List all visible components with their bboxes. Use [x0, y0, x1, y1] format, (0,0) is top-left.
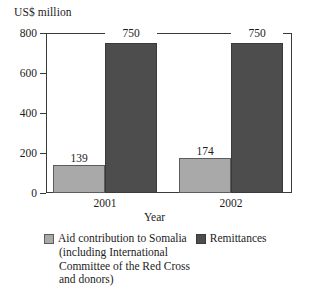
- bar-value-2002-aid: 174: [179, 145, 231, 157]
- bar-2002-aid: [179, 158, 231, 193]
- legend-label-aid: Aid contribution to Somalia: [58, 232, 187, 246]
- legend-label-aid-continued: (including International Committee of th…: [59, 246, 190, 287]
- bar-2001-remittances: [105, 43, 157, 193]
- bar-value-2002-remittances: 750: [231, 27, 283, 39]
- y-axis-caption: US$ million: [14, 6, 72, 18]
- y-tick-400: [40, 113, 46, 114]
- y-tick-label-600: 600: [0, 67, 37, 79]
- bar-2001-aid: [53, 165, 105, 193]
- legend-row: Aid contribution to Somalia Remittances: [44, 232, 306, 246]
- legend-swatch-remittances-icon: [196, 234, 206, 244]
- bar-value-2001-aid: 139: [53, 152, 105, 164]
- y-tick-label-400: 400: [0, 107, 37, 119]
- legend-aid-line3: Committee of the Red Cross: [59, 260, 190, 274]
- y-tick-200: [40, 153, 46, 154]
- x-tick-label-2001: 2001: [79, 197, 131, 209]
- y-tick-600: [40, 73, 46, 74]
- legend-label-remittances: Remittances: [210, 232, 267, 246]
- chart-legend: Aid contribution to Somalia Remittances …: [44, 232, 306, 246]
- bar-2002-remittances: [231, 43, 283, 193]
- y-tick-label-200: 200: [0, 147, 37, 159]
- bar-value-2001-remittances: 750: [105, 27, 157, 39]
- legend-entry-aid[interactable]: Aid contribution to Somalia: [44, 232, 187, 246]
- legend-entry-remittances[interactable]: Remittances: [196, 232, 267, 246]
- legend-swatch-aid-icon: [44, 234, 54, 244]
- y-tick-0: [40, 193, 46, 194]
- x-axis-title: Year: [0, 211, 309, 223]
- bar-chart-figure: US$ million 800 600 400 200 0 139 750 17…: [0, 0, 309, 307]
- y-tick-label-800: 800: [0, 27, 37, 39]
- x-tick-label-2002: 2002: [205, 197, 257, 209]
- y-tick-800: [40, 33, 46, 34]
- legend-aid-line2: (including International: [59, 246, 190, 260]
- legend-aid-line4: and donors): [59, 273, 190, 287]
- y-tick-label-0: 0: [0, 187, 37, 199]
